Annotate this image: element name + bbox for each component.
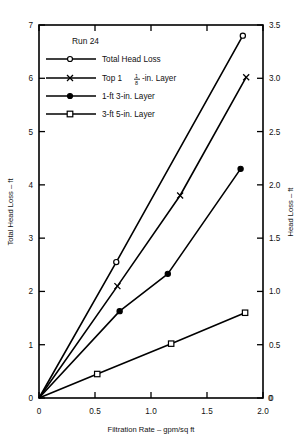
- y-tick-label-right: 1.5: [269, 234, 281, 243]
- filled-circle-marker-icon: [68, 94, 73, 99]
- data-point-open-square: [168, 341, 173, 346]
- data-point-open-circle: [114, 260, 119, 265]
- legend-label-suffix: -in. Layer: [142, 74, 176, 83]
- fraction-denominator: 8: [135, 80, 138, 86]
- y-tick-label-left: 3: [28, 234, 33, 243]
- data-point-open-circle: [240, 33, 245, 38]
- y-tick-label-right: 0.5: [269, 341, 281, 350]
- y-tick-label-left: 0: [28, 394, 33, 403]
- y-tick-label-left: 2: [28, 287, 33, 296]
- legend-label-prefix: Top 1: [102, 74, 122, 83]
- open-circle-marker-icon: [68, 57, 73, 62]
- fraction-numerator: 1: [135, 73, 138, 79]
- legend-label: 1-ft 3-in. Layer: [102, 92, 155, 101]
- data-point-filled-circle: [165, 271, 170, 276]
- right-axis-zero-label: 0: [268, 394, 273, 403]
- y-tick-label-left: 4: [28, 181, 33, 190]
- y-tick-label-left: 1: [28, 341, 33, 350]
- x-tick-label: 2.0: [257, 407, 269, 416]
- y-tick-label-left: 7: [28, 21, 33, 30]
- data-point-open-square: [242, 310, 247, 315]
- data-point-filled-circle: [117, 309, 122, 314]
- x-tick-label: 1.0: [145, 407, 157, 416]
- legend-label: Total Head Loss: [102, 55, 161, 64]
- chart-container: 00.51.01.52.0 01234567 00.51.01.52.02.53…: [0, 0, 302, 445]
- head-loss-line-chart: 00.51.01.52.0 01234567 00.51.01.52.02.53…: [0, 0, 302, 445]
- y-tick-label-right: 1.0: [269, 287, 281, 296]
- legend-label: 3-ft 5-in. Layer: [102, 110, 155, 119]
- x-tick-label: 1.5: [201, 407, 213, 416]
- y-axis-left-title: Total Head Loss – ft: [6, 178, 15, 246]
- x-tick-label: 0: [37, 407, 42, 416]
- y-tick-label-right: 3.5: [269, 21, 281, 30]
- y-tick-label-right: 3.0: [269, 74, 281, 83]
- y-tick-label-right: 2.0: [269, 181, 281, 190]
- y-tick-label-right: 2.5: [269, 128, 281, 137]
- x-axis-title: Filtration Rate – gpm/sq ft: [108, 425, 196, 434]
- chart-background: [0, 0, 302, 445]
- data-point-open-square: [95, 371, 100, 376]
- x-tick-label: 0.5: [89, 407, 101, 416]
- open-square-marker-icon: [67, 111, 73, 117]
- y-tick-label-left: 6: [28, 74, 33, 83]
- y-axis-right-title: Head Loss – ft: [286, 187, 295, 237]
- chart-title-run: Run 24: [72, 36, 99, 46]
- data-point-filled-circle: [238, 166, 243, 171]
- y-tick-label-left: 5: [28, 128, 33, 137]
